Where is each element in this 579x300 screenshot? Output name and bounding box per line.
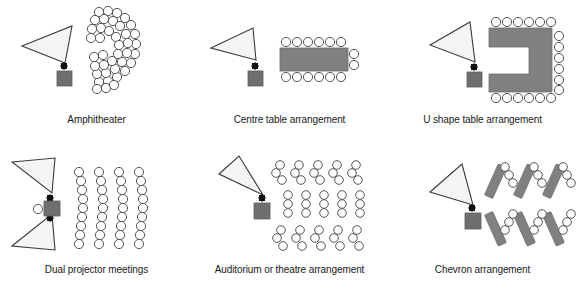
panel-caption: Amphitheater xyxy=(0,114,193,125)
rectangular-table xyxy=(280,48,348,71)
chevron-diagram xyxy=(386,150,579,274)
seat-group-top xyxy=(491,17,555,26)
seat-block-bottom xyxy=(273,226,364,251)
seat-column-1 xyxy=(74,167,87,248)
screen-square xyxy=(44,201,60,216)
arrangement-figure: Amphitheater xyxy=(0,0,579,300)
projector-diamond xyxy=(468,204,476,212)
seat-column-4 xyxy=(134,167,147,248)
amphitheater-diagram xyxy=(0,0,193,124)
projector-diamond xyxy=(60,62,68,70)
seat-group-right xyxy=(554,31,563,94)
panel-dual-projector: Dual projector meetings xyxy=(0,150,193,300)
projection-beam-triangle-top xyxy=(12,158,55,193)
panel-chevron: Chevron arrangement xyxy=(386,150,579,300)
projector-diamond xyxy=(251,62,259,70)
chevron-table-group-bottom xyxy=(484,210,575,246)
panel-centre-table: Centre table arrangement xyxy=(193,0,386,150)
seat-group-top xyxy=(281,37,345,46)
panel-auditorium: Auditorium or theatre arrangement xyxy=(193,150,386,300)
projection-beam-triangle xyxy=(22,26,72,63)
seat-column-2 xyxy=(94,167,107,248)
presenter-seat-circle xyxy=(33,204,42,213)
u-shape-table-diagram xyxy=(386,0,579,124)
screen-square xyxy=(465,213,481,229)
projector-diamond xyxy=(258,194,266,202)
dual-projector-diagram xyxy=(0,150,193,274)
seat-column-3 xyxy=(114,167,127,248)
seat-block-top xyxy=(272,161,363,185)
seat-group-right xyxy=(349,49,358,69)
screen-square xyxy=(57,71,72,86)
projection-beam-triangle xyxy=(211,28,256,60)
seat-block-middle xyxy=(284,191,365,218)
panel-caption: Dual projector meetings xyxy=(0,264,193,275)
seat-arc-group xyxy=(86,6,140,93)
panel-caption: U shape table arrangement xyxy=(386,114,579,125)
screen-square xyxy=(254,203,270,219)
panel-caption: Auditorium or theatre arrangement xyxy=(193,264,386,275)
chevron-table-group-top xyxy=(484,163,575,199)
projection-beam-triangle xyxy=(430,22,475,62)
seat-group xyxy=(501,210,576,235)
centre-table-diagram xyxy=(193,0,386,124)
screen-square xyxy=(248,71,263,86)
panel-amphitheater: Amphitheater xyxy=(0,0,193,150)
seat-group-bottom xyxy=(281,72,345,81)
auditorium-diagram xyxy=(193,150,386,274)
panel-caption: Centre table arrangement xyxy=(193,114,386,125)
projector-diamond xyxy=(470,63,478,71)
projection-beam-triangle xyxy=(219,156,263,195)
seat-group-bottom xyxy=(491,93,555,102)
panel-u-shape-table: U shape table arrangement xyxy=(386,0,579,150)
screen-square xyxy=(467,72,482,87)
u-shaped-table xyxy=(489,28,552,92)
projection-beam-triangle xyxy=(430,164,473,205)
seat-group xyxy=(501,163,576,188)
panel-caption: Chevron arrangement xyxy=(386,264,579,275)
